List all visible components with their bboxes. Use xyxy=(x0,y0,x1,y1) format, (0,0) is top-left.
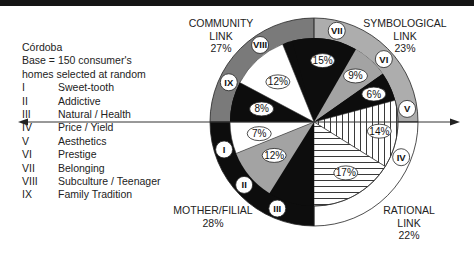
arrow-right-icon xyxy=(450,119,460,126)
slice-percent-label: 9% xyxy=(348,70,363,81)
arrow-left-icon xyxy=(18,119,28,126)
quadrant-label-bottom-right: 22% xyxy=(398,229,419,241)
ring-numeral-viii: VIII xyxy=(253,39,267,50)
slice-percent-label: 12% xyxy=(268,76,288,87)
quadrant-label-top-left: 27% xyxy=(210,42,231,54)
quadrant-label-bottom-right: LINK xyxy=(397,217,420,229)
motivation-pie-chart: 15%9%6%14%17%12%7%8%12%IIIIIIIVVVIVIIVII… xyxy=(0,0,474,256)
quadrant-label-top-right: SYMBOLOGICAL xyxy=(363,17,447,29)
slice-percent-label: 8% xyxy=(254,103,269,114)
ring-numeral-vii: VII xyxy=(331,25,343,36)
ring-numeral-iii: III xyxy=(273,203,281,214)
ring-numeral-i: I xyxy=(223,144,226,155)
slice-percent-label: 17% xyxy=(336,167,356,178)
quadrant-label-bottom-right: RATIONAL xyxy=(383,204,435,216)
quadrant-label-bottom-left: MOTHER/FILIAL xyxy=(173,204,253,216)
slice-percent-label: 14% xyxy=(369,126,389,137)
quadrant-label-top-left: COMMUNITY xyxy=(189,17,254,29)
ring-numeral-v: V xyxy=(404,103,411,114)
slice-percent-label: 12% xyxy=(264,150,284,161)
ring-numeral-ii: II xyxy=(242,179,247,190)
slice-percent-label: 7% xyxy=(252,128,267,139)
ring-numeral-ix: IX xyxy=(224,77,234,88)
slice-percent-label: 6% xyxy=(367,89,382,100)
quadrant-label-top-right: LINK xyxy=(393,30,416,42)
quadrant-label-top-left: LINK xyxy=(209,30,232,42)
quadrant-label-bottom-left: 28% xyxy=(202,217,223,229)
ring-numeral-vi: VI xyxy=(379,54,388,65)
quadrant-label-top-right: 23% xyxy=(394,42,415,54)
slice-percent-label: 15% xyxy=(313,55,333,66)
ring-numeral-iv: IV xyxy=(397,152,407,163)
